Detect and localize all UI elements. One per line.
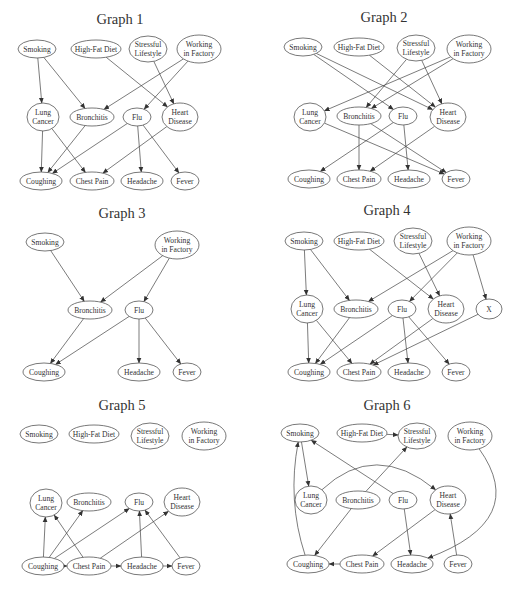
node-label: Smoking (31, 238, 59, 247)
graph-title: Graph 3 (98, 205, 145, 221)
node-factory: Workingin Factory (182, 422, 226, 450)
node-chest: Chest Pain (337, 363, 381, 381)
node-label: Smoking (290, 237, 318, 246)
edge-x-to-chest (373, 314, 478, 365)
edge-cough-to-flu (54, 508, 129, 558)
edge-lung-to-fever (324, 123, 444, 174)
edge-factory-to-bron (101, 256, 163, 302)
node-label: Working (456, 232, 483, 241)
node-label: Working (164, 236, 191, 245)
node-fever: Fever (442, 363, 470, 381)
node-label: Stressful (404, 427, 431, 436)
edge-chest-to-lung (54, 515, 83, 557)
node-label: Flu (398, 112, 408, 121)
node-label: Coughing (29, 368, 59, 377)
edge-smoking-to-bron (44, 57, 85, 108)
node-label: High-Fat Diet (341, 429, 384, 438)
edge-smoking-to-bron (51, 251, 85, 302)
node-label: Flu (398, 496, 408, 505)
node-label: Cancer (299, 117, 321, 126)
node-heart: HeartDisease (428, 295, 464, 323)
edge-flu-to-cough (320, 122, 393, 171)
edge-highfat-to-stress (387, 434, 398, 435)
node-label: Fever (447, 175, 465, 184)
node-cough: Coughing (287, 555, 329, 573)
graph-6: Graph 6SmokingHigh-Fat DietStressfulLife… (281, 397, 496, 573)
edge-lung-to-cough (41, 131, 42, 172)
node-bron: Bronchitis (337, 107, 381, 125)
node-x: X (476, 299, 502, 319)
edge-fever-to-heart (450, 514, 456, 555)
node-lung: LungCancer (30, 489, 62, 517)
edge-smoking-to-flu (314, 54, 394, 109)
node-stress: StressfulLifestyle (394, 228, 432, 254)
node-label: Coughing (294, 175, 324, 184)
edge-flu-to-cough (320, 316, 392, 365)
node-label: High-Fat Diet (338, 43, 381, 52)
node-heart: HeartDisease (430, 103, 466, 131)
node-fever: Fever (442, 170, 470, 188)
node-label: Smoking (289, 43, 317, 52)
node-label: Heart (438, 300, 456, 309)
node-label: Bronchitis (340, 305, 372, 314)
node-lung: LungCancer (295, 486, 327, 514)
node-lung: LungCancer (294, 103, 326, 131)
graph-title: Graph 6 (363, 397, 410, 413)
node-cough: Coughing (20, 172, 62, 190)
node-label: Cancer (35, 503, 57, 512)
node-label: Coughing (28, 562, 58, 571)
node-label: Flu (134, 498, 144, 507)
node-label: Disease (436, 117, 460, 126)
node-label: Working (191, 427, 218, 436)
nodes: SmokingHigh-Fat DietStressfulLifestyleWo… (20, 422, 226, 575)
node-label: High-Fat Diet (75, 45, 118, 54)
node-flu: Flu (388, 300, 416, 318)
edge-lung-to-chest (52, 129, 86, 173)
node-label: Coughing (294, 368, 324, 377)
edge-flu-to-fever (409, 317, 449, 364)
node-label: Bronchitis (342, 496, 374, 505)
graph-3: Graph 3SmokingWorkingin FactoryBronchiti… (23, 205, 201, 381)
node-flu: Flu (123, 108, 151, 126)
edge-flu-to-cough (52, 123, 127, 173)
graph-4: Graph 4SmokingHigh-Fat DietStressfulLife… (285, 202, 502, 381)
node-label: Smoking (286, 429, 314, 438)
nodes: SmokingHigh-Fat DietStressfulLifestyleWo… (18, 35, 221, 190)
edge-factory-to-lung (324, 57, 450, 111)
node-label: Disease (168, 117, 192, 126)
graph-1: Graph 1SmokingHigh-Fat DietStressfulLife… (18, 11, 221, 190)
node-smoking: Smoking (281, 424, 319, 442)
graph-title: Graph 5 (98, 397, 145, 413)
node-label: X (486, 305, 492, 314)
node-label: Heart (174, 493, 192, 502)
node-label: Headache (127, 562, 158, 571)
node-head: Headache (118, 363, 160, 381)
node-chest: Chest Pain (70, 172, 114, 190)
edge-flu-to-fever (145, 318, 181, 364)
node-smoking: Smoking (284, 38, 322, 56)
edge-stress-to-heart (422, 60, 442, 103)
node-label: Smoking (23, 45, 51, 54)
node-stress: StressfulLifestyle (129, 36, 167, 62)
node-label: Lifestyle (135, 49, 163, 58)
node-smoking: Smoking (20, 425, 58, 443)
edge-stress-to-heart (419, 253, 440, 296)
node-cough: Coughing (288, 170, 330, 188)
node-label: Coughing (293, 560, 323, 569)
node-factory: Workingin Factory (448, 422, 492, 450)
node-chest: Chest Pain (337, 170, 381, 188)
node-fever: Fever (173, 363, 201, 381)
graph-title: Graph 1 (96, 11, 143, 27)
node-stress: StressfulLifestyle (398, 423, 436, 449)
node-flu: Flu (125, 301, 153, 319)
node-label: in Factory (161, 245, 192, 254)
node-label: Chest Pain (73, 562, 106, 571)
node-label: Lung (302, 108, 318, 117)
causal-graphs-figure: Graph 1SmokingHigh-Fat DietStressfulLife… (0, 0, 527, 594)
node-label: Chest Pain (343, 368, 376, 377)
edges (43, 508, 180, 566)
node-stress: StressfulLifestyle (131, 423, 169, 449)
node-fever: Fever (444, 555, 472, 573)
node-stress: StressfulLifestyle (397, 35, 435, 61)
node-factory: Workingin Factory (447, 35, 491, 63)
